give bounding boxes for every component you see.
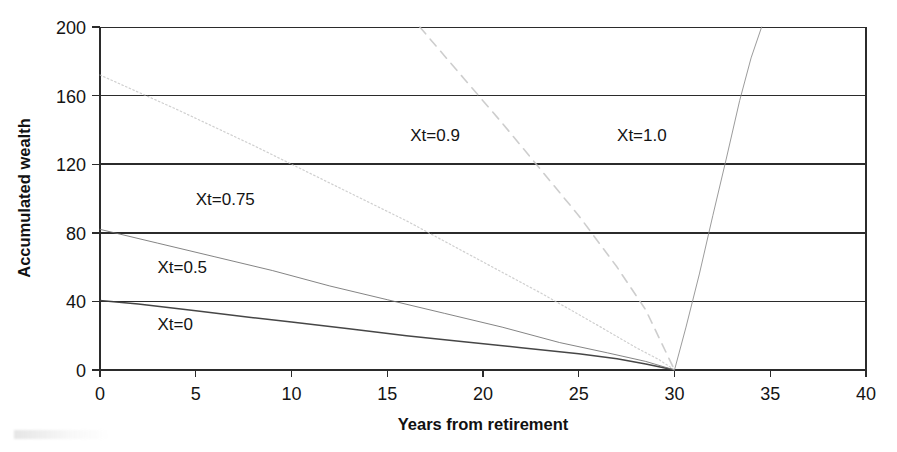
x-tick-label-15: 15 (377, 384, 397, 404)
y-tick-label-160: 160 (56, 87, 86, 107)
x-axis-tick-labels: 0510152025303540 (95, 384, 876, 404)
series-label-xt-1-0: Xt=1.0 (617, 126, 667, 145)
x-tick-label-5: 5 (191, 384, 201, 404)
x-tick-label-30: 30 (664, 384, 684, 404)
line-chart-canvas: 0510152025303540 04080120160200 Xt=0Xt=0… (0, 0, 897, 452)
x-tick-label-0: 0 (95, 384, 105, 404)
series-label-xt-0: Xt=0 (157, 315, 192, 334)
x-tick-label-20: 20 (473, 384, 493, 404)
y-axis-title: Accumulated wealth (15, 118, 33, 278)
chart-figure: 0510152025303540 04080120160200 Xt=0Xt=0… (0, 0, 897, 452)
y-tick-label-80: 80 (66, 224, 86, 244)
x-tick-label-35: 35 (760, 384, 780, 404)
y-tick-label-200: 200 (56, 18, 86, 38)
series-label-xt-0-75: Xt=0.75 (196, 190, 255, 209)
x-tick-label-40: 40 (856, 384, 876, 404)
y-tick-label-40: 40 (66, 292, 86, 312)
series-label-xt-0-9: Xt=0.9 (410, 126, 460, 145)
series-label-xt-0-5: Xt=0.5 (157, 258, 207, 277)
x-tick-label-10: 10 (281, 384, 301, 404)
x-axis-title: Years from retirement (398, 415, 569, 433)
y-tick-label-120: 120 (56, 155, 86, 175)
y-tick-label-0: 0 (76, 361, 86, 381)
x-tick-label-25: 25 (569, 384, 589, 404)
y-axis-tick-labels: 04080120160200 (56, 18, 86, 381)
